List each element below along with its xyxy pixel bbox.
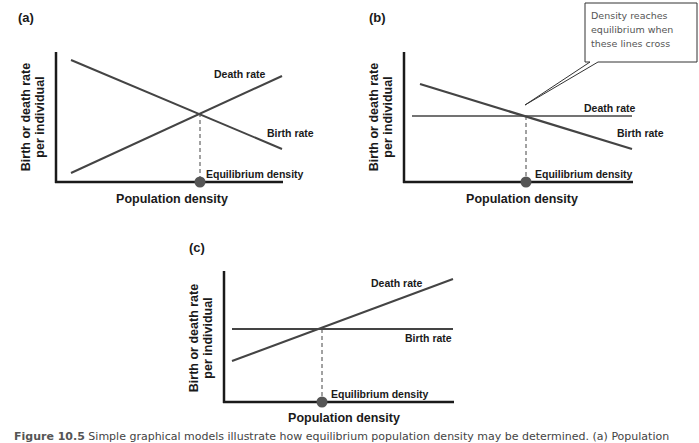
panel-c-x-axis-label: Population density (288, 411, 400, 425)
panel-b-equilibrium-label: Equilibrium density (535, 168, 633, 180)
panel-b-death-rate-label: Death rate (584, 102, 636, 114)
panel-c-death-rate-line (232, 279, 453, 361)
callout-line-2: equilibrium when (591, 24, 673, 35)
panel-b-y-axis-label-line1: Birth or death rate (367, 63, 381, 171)
panel-c-y-axis-label-line1: Birth or death rate (187, 284, 201, 392)
panel-b-x-axis-label: Population density (466, 192, 578, 206)
panel-b-callout: Density reaches equilibrium when these l… (525, 3, 697, 105)
panel-c-y-axis-label-line2: per individual (201, 297, 215, 378)
panel-c-birth-rate-label: Birth rate (405, 332, 452, 344)
panel-a-label: (a) (18, 10, 34, 25)
panel-c-label: (c) (189, 240, 205, 255)
panel-a-y-axis-label-line2: per individual (33, 76, 47, 157)
panel-c: (c) Death rate Birth rate Equilibrium de… (187, 240, 454, 425)
panel-a-birth-rate-label: Birth rate (267, 127, 314, 139)
callout-line-1: Density reaches (591, 10, 668, 21)
panel-a-death-rate-line (71, 76, 282, 173)
panel-c-equilibrium-label: Equilibrium density (331, 388, 429, 400)
panel-c-equilibrium-dot (317, 397, 328, 408)
figure-caption-text: Simple graphical models illustrate how e… (88, 430, 669, 443)
panel-a-y-axis-label-line1: Birth or death rate (19, 63, 33, 171)
panel-b-equilibrium-dot (521, 177, 532, 188)
panel-b: (b) Death rate Birth rate Equilibrium de… (367, 3, 697, 206)
panel-a-equilibrium-dot (195, 177, 206, 188)
panel-a-x-axis-label: Population density (116, 192, 228, 206)
panel-a: (a) Death rate Birth rate Equilibrium de… (18, 10, 314, 206)
panel-b-birth-rate-label: Birth rate (617, 127, 664, 139)
panel-b-label: (b) (369, 10, 386, 25)
panel-c-death-rate-label: Death rate (371, 277, 423, 289)
panel-b-y-axis-label-line2: per individual (381, 76, 395, 157)
figure-caption: Figure 10.5 Simple graphical models illu… (14, 430, 694, 443)
panel-a-death-rate-label: Death rate (214, 68, 266, 80)
panel-a-equilibrium-label: Equilibrium density (206, 168, 304, 180)
callout-line-3: these lines cross (591, 38, 670, 49)
figure-caption-label: Figure 10.5 (14, 430, 85, 443)
